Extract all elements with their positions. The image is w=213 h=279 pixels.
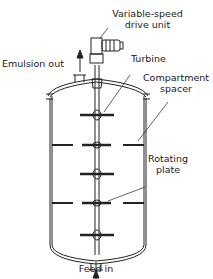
label-plate-line1: Rotating xyxy=(143,153,193,164)
drive-motor xyxy=(102,40,120,51)
leader-spacer xyxy=(138,102,168,141)
label-spacer-line2: spacer xyxy=(140,83,212,94)
label-turbine: Turbine xyxy=(131,53,166,64)
label-plate-line2: plate xyxy=(143,164,193,175)
diagram-canvas: Variable-speed drive unit Emulsion out T… xyxy=(0,0,213,279)
leader-plate xyxy=(108,187,145,201)
label-drive-line2: drive unit xyxy=(95,19,200,30)
label-compartment-spacer: Compartment spacer xyxy=(140,72,212,94)
label-feed-in: Feed in xyxy=(70,263,122,274)
label-drive-line1: Variable-speed xyxy=(95,8,200,19)
drive-motor-housing xyxy=(91,38,102,54)
label-spacer-line1: Compartment xyxy=(140,72,212,83)
vessel-drawing xyxy=(0,0,213,279)
label-rotating-plate: Rotating plate xyxy=(143,153,193,175)
shaft xyxy=(95,65,99,255)
label-emulsion-out: Emulsion out xyxy=(2,58,64,69)
label-drive-unit: Variable-speed drive unit xyxy=(95,8,200,30)
